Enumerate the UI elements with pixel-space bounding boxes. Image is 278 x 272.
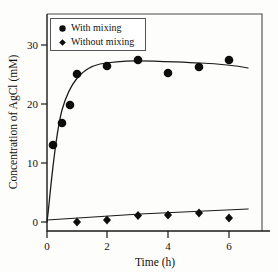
x-axis-title: Time (h) bbox=[135, 256, 175, 269]
y-tick-label-0: 0 bbox=[33, 216, 39, 228]
y-tick-label-10: 10 bbox=[27, 157, 39, 169]
y-tick-label-20: 20 bbox=[27, 98, 39, 110]
x-tick-label-4: 4 bbox=[165, 240, 171, 252]
legend-label-without-mixing: Without mixing bbox=[68, 35, 134, 49]
chart-figure: 0 10 20 30 0 2 4 6 Time (h) Concentratio… bbox=[0, 0, 278, 272]
x-tick-label-6: 6 bbox=[226, 240, 232, 252]
legend-label-with-mixing: With mixing bbox=[68, 21, 121, 35]
diamond-marker-icon bbox=[56, 38, 68, 47]
x-tick-label-0: 0 bbox=[44, 240, 50, 252]
with-mixing-fit-curve bbox=[47, 61, 248, 222]
y-axis-ticks bbox=[41, 45, 47, 222]
y-axis-title: Concentration of AgCl (mM) bbox=[7, 55, 20, 190]
y-tick-label-30: 30 bbox=[27, 39, 39, 51]
chart-legend: With mixing Without mixing bbox=[50, 18, 146, 51]
legend-entry-with-mixing: With mixing bbox=[56, 21, 141, 35]
circle-marker-icon bbox=[56, 24, 68, 33]
legend-entry-without-mixing: Without mixing bbox=[56, 35, 141, 49]
x-tick-label-2: 2 bbox=[104, 240, 110, 252]
with-mixing-data-points bbox=[49, 56, 234, 150]
x-axis-ticks bbox=[47, 231, 229, 238]
